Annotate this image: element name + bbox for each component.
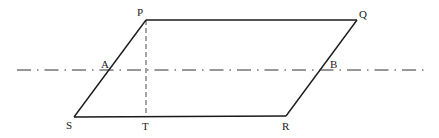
vertex-label-P: P (137, 6, 143, 18)
point-label-A: A (101, 58, 109, 70)
edge-SP (74, 20, 146, 117)
point-label-B: B (330, 58, 337, 70)
point-label-T: T (142, 120, 149, 132)
vertex-label-S: S (66, 119, 72, 131)
edge-RS (74, 116, 286, 117)
parallelogram-diagram: P Q R S A B T (0, 0, 439, 138)
vertex-label-Q: Q (359, 8, 367, 20)
vertex-label-R: R (282, 120, 290, 132)
edge-QR (286, 20, 357, 116)
